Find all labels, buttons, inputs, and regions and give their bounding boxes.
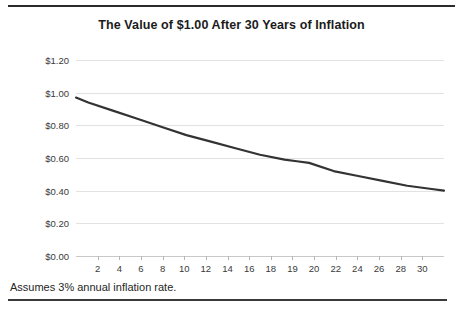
x-axis-tick-label: 10 bbox=[179, 263, 190, 274]
chart-plot-wrapper: $0.00$0.20$0.40$0.60$0.80$1.00$1.20 2468… bbox=[0, 0, 463, 275]
x-axis-tick bbox=[292, 256, 293, 260]
x-axis-tick bbox=[163, 256, 164, 260]
x-axis-tick-label: 12 bbox=[201, 263, 212, 274]
x-axis-tick-label: 8 bbox=[160, 263, 165, 274]
x-axis-tick-label: 14 bbox=[222, 263, 233, 274]
x-axis-tick-label: 20 bbox=[309, 263, 320, 274]
bottom-divider bbox=[8, 299, 447, 301]
x-axis-tick bbox=[314, 256, 315, 260]
x-axis-tick bbox=[141, 256, 142, 260]
y-axis-tick-label: $1.00 bbox=[45, 87, 69, 98]
y-axis-tick-label: $0.40 bbox=[45, 185, 69, 196]
x-axis-tick bbox=[228, 256, 229, 260]
x-axis-tick bbox=[184, 256, 185, 260]
x-axis-tick-label: 28 bbox=[395, 263, 406, 274]
x-axis-tick bbox=[336, 256, 337, 260]
x-axis-tick bbox=[357, 256, 358, 260]
y-axis-tick-label: $0.60 bbox=[45, 153, 69, 164]
x-axis-tick-label: 22 bbox=[330, 263, 341, 274]
y-axis-tick-label: $0.00 bbox=[45, 251, 69, 262]
chart-page: The Value of $1.00 After 30 Years of Inf… bbox=[0, 0, 463, 320]
x-axis-tick bbox=[119, 256, 120, 260]
data-line bbox=[76, 98, 444, 191]
y-axis-tick-label: $0.80 bbox=[45, 120, 69, 131]
x-axis-tick bbox=[271, 256, 272, 260]
data-line-group bbox=[76, 60, 444, 256]
x-axis-tick bbox=[206, 256, 207, 260]
x-axis-tick bbox=[422, 256, 423, 260]
y-axis-tick-label: $0.20 bbox=[45, 218, 69, 229]
y-axis-tick-label: $1.20 bbox=[45, 55, 69, 66]
x-axis-tick bbox=[401, 256, 402, 260]
x-axis-tick-label: 19 bbox=[287, 263, 298, 274]
x-axis-tick-label: 26 bbox=[374, 263, 385, 274]
x-axis-tick-label: 4 bbox=[117, 263, 122, 274]
x-axis-tick-label: 30 bbox=[417, 263, 428, 274]
x-axis-tick bbox=[98, 256, 99, 260]
x-axis-tick-label: 6 bbox=[138, 263, 143, 274]
x-axis-tick-label: 16 bbox=[244, 263, 255, 274]
x-axis-tick-label: 24 bbox=[352, 263, 363, 274]
x-axis: 2468101214161819202224262830 bbox=[76, 256, 444, 276]
x-axis-tick-label: 2 bbox=[95, 263, 100, 274]
plot-area: $0.00$0.20$0.40$0.60$0.80$1.00$1.20 2468… bbox=[76, 60, 444, 256]
x-axis-tick-label: 18 bbox=[266, 263, 277, 274]
x-axis-tick bbox=[249, 256, 250, 260]
footnote: Assumes 3% annual inflation rate. bbox=[10, 281, 176, 293]
x-axis-tick bbox=[379, 256, 380, 260]
